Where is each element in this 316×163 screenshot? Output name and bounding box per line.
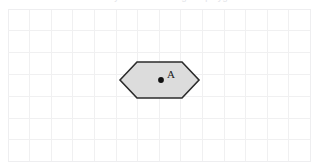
center-point-a-dot[interactable] bbox=[158, 77, 164, 83]
center-point-a-label: A bbox=[167, 69, 175, 80]
figure-canvas: Geometry worksheet - regular polygon A bbox=[0, 0, 316, 163]
figure-layer bbox=[0, 0, 316, 163]
